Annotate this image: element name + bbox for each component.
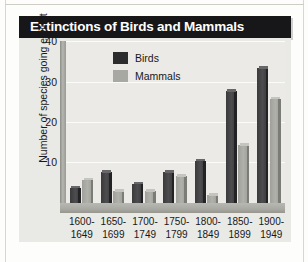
bar-mammals-1750-1799 xyxy=(176,176,187,203)
bar-side xyxy=(109,172,112,203)
bar-side xyxy=(266,68,269,203)
bar-top xyxy=(196,159,205,162)
x-tick-label-line1: 1800- xyxy=(195,216,221,227)
bar-top xyxy=(102,170,111,173)
bar-side xyxy=(172,172,175,203)
x-tick-label-line2: 1799 xyxy=(161,229,193,242)
bar-top xyxy=(84,178,93,181)
legend-item-birds: Birds xyxy=(113,52,181,64)
bar-side xyxy=(91,180,94,203)
bar-birds-1850-1899 xyxy=(226,91,237,203)
bar-side xyxy=(278,99,281,203)
bar-top xyxy=(71,186,80,189)
chart-body: Number of species going extinct 40 30 20… xyxy=(19,38,291,242)
chart-title-bar: Extinctions of Birds and Mammals xyxy=(19,16,291,38)
x-tick-label-line1: 1600- xyxy=(69,216,95,227)
x-tick-label-line1: 1650- xyxy=(101,216,127,227)
x-tick-label-line1: 1850- xyxy=(227,216,253,227)
x-tick-label: 1850-1899 xyxy=(224,216,256,246)
x-tick-label-line1: 1900- xyxy=(258,216,284,227)
bar-birds-1700-1749 xyxy=(132,184,143,203)
bar-birds-1750-1799 xyxy=(163,172,174,203)
bar-mammals-1700-1749 xyxy=(145,191,156,203)
x-tick-label: 1600-1649 xyxy=(66,216,98,246)
bar-top xyxy=(177,174,186,177)
bar-top xyxy=(259,66,268,69)
x-tick-label: 1800-1849 xyxy=(192,216,224,246)
x-tick-label: 1900-1949 xyxy=(255,216,287,246)
legend-swatch-birds-icon xyxy=(113,52,128,64)
bar-top xyxy=(134,182,143,185)
bar-top xyxy=(115,189,124,192)
page-rule-right xyxy=(303,0,304,262)
legend-label-mammals: Mammals xyxy=(135,70,181,82)
bar-side xyxy=(234,91,237,203)
bar-top xyxy=(227,89,236,92)
x-tick-label-line2: 1649 xyxy=(66,229,98,242)
bar-birds-1650-1699 xyxy=(101,172,112,203)
x-tick-label-line2: 1949 xyxy=(255,229,287,242)
page-rule-left xyxy=(5,0,6,262)
x-axis-base xyxy=(60,203,285,213)
y-tick-label: 30 xyxy=(33,76,57,88)
legend-swatch-mammals-icon xyxy=(113,70,128,82)
x-tick-label-line2: 1899 xyxy=(224,229,256,242)
x-tick-label: 1700-1749 xyxy=(129,216,161,246)
bar-mammals-1900-1949 xyxy=(270,99,281,203)
x-tick-label-line2: 1749 xyxy=(129,229,161,242)
bar-mammals-1650-1699 xyxy=(113,191,124,203)
legend-label-birds: Birds xyxy=(135,52,159,64)
x-tick-label: 1650-1699 xyxy=(98,216,130,246)
x-axis-tick-labels: 1600-16491650-16991700-17491750-17991800… xyxy=(66,216,287,246)
figure-container: Extinctions of Birds and Mammals Number … xyxy=(0,0,308,262)
x-tick-label: 1750-1799 xyxy=(161,216,193,246)
chart-title: Extinctions of Birds and Mammals xyxy=(30,19,244,34)
bar-side xyxy=(141,184,144,203)
bar-side xyxy=(203,161,206,203)
bar-top xyxy=(146,189,155,192)
bar-side xyxy=(216,195,219,203)
x-tick-label-line2: 1699 xyxy=(98,229,130,242)
bar-top xyxy=(271,97,280,100)
bar-birds-1600-1649 xyxy=(70,188,81,203)
bar-top xyxy=(209,193,218,196)
page-rule-top xyxy=(5,4,304,5)
bar-mammals-1800-1849 xyxy=(207,195,218,203)
y-tick-label: 40 xyxy=(33,35,57,47)
x-tick-label-line1: 1750- xyxy=(164,216,190,227)
legend-item-mammals: Mammals xyxy=(113,70,181,82)
bar-side xyxy=(122,191,125,203)
x-tick-label-line2: 1849 xyxy=(192,229,224,242)
bar-side xyxy=(247,145,250,203)
bar-mammals-1850-1899 xyxy=(238,145,249,203)
bar-birds-1900-1949 xyxy=(257,68,268,203)
legend: Birds Mammals xyxy=(113,52,181,88)
bar-side xyxy=(184,176,187,203)
bar-top xyxy=(165,170,174,173)
bar-birds-1800-1849 xyxy=(195,161,206,203)
y-tick-label: 20 xyxy=(33,116,57,128)
y-tick-label: 10 xyxy=(33,156,57,168)
bar-side xyxy=(78,188,81,203)
bar-top xyxy=(240,143,249,146)
x-tick-label-line1: 1700- xyxy=(132,216,158,227)
bar-mammals-1600-1649 xyxy=(82,180,93,203)
bar-side xyxy=(153,191,156,203)
y-axis-tick-labels: 40 30 20 10 xyxy=(33,38,57,242)
